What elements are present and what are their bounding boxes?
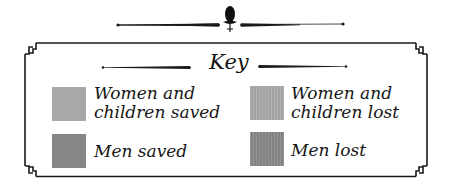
label-women-children-saved: Women and children saved	[94, 84, 220, 122]
swatch-men-lost	[250, 132, 284, 166]
label-men-saved: Men saved	[94, 142, 187, 161]
label-men-lost: Men lost	[291, 141, 366, 160]
legend-title: Key	[200, 50, 258, 74]
swatch-women-children-lost	[250, 86, 284, 120]
swatch-men-saved	[52, 134, 86, 168]
swatch-women-children-saved	[52, 87, 86, 121]
label-women-children-lost: Women and children lost	[291, 84, 399, 122]
top-flourish-icon	[116, 6, 344, 32]
